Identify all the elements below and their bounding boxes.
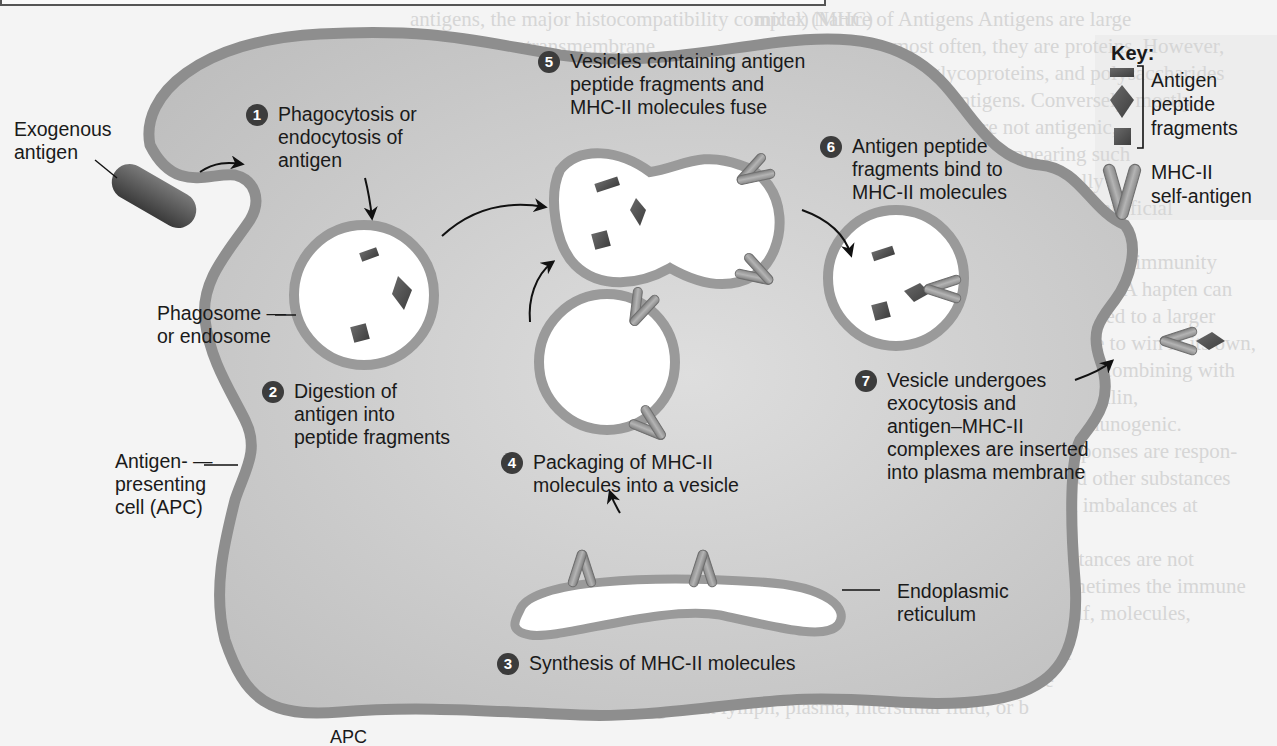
key-bracket	[1137, 66, 1143, 148]
key-rectangle-fragment-icon	[1110, 68, 1134, 77]
step-3: 3 Synthesis of MHC-II molecules	[497, 652, 796, 675]
step-4: 4 Packaging of MHC-IImolecules into a ve…	[501, 451, 739, 497]
label-exogenous-antigen: Exogenous antigen	[14, 118, 112, 164]
step-1: 1 Phagocytosis orendocytosis ofantigen	[246, 103, 417, 172]
bottom-fragment-text: APC	[330, 726, 367, 746]
label-apc: Antigen- — presenting cell (APC)	[115, 450, 213, 519]
step-2-badge: 2	[262, 381, 284, 403]
step-2-text: Digestion ofantigen intopeptide fragment…	[294, 380, 450, 449]
key-square-fragment-icon	[1114, 128, 1131, 145]
step-2: 2 Digestion ofantigen intopeptide fragme…	[262, 380, 450, 449]
step-1-badge: 1	[246, 104, 268, 126]
label-endoplasmic-reticulum: Endoplasmic reticulum	[897, 580, 1009, 626]
label-phagosome: Phagosome — or endosome	[157, 302, 286, 348]
step-4-text: Packaging of MHC-IImolecules into a vesi…	[533, 451, 739, 497]
step-4-badge: 4	[501, 452, 523, 474]
step-3-badge: 3	[497, 653, 519, 675]
key-title: Key:	[1111, 42, 1154, 65]
phagosome	[294, 225, 434, 365]
step-6-badge: 6	[820, 136, 842, 158]
step-5: 5 Vesicles containing antigenpeptide fra…	[538, 50, 805, 119]
step-3-text: Synthesis of MHC-II molecules	[529, 652, 796, 675]
step-7-badge: 7	[855, 370, 877, 392]
step-6-text: Antigen peptidefragments bind toMHC-II m…	[852, 135, 1007, 204]
step-5-badge: 5	[538, 51, 560, 73]
step-7-text: Vesicle undergoesexocytosis andantigen–M…	[887, 369, 1089, 484]
step-5-text: Vesicles containing antigenpeptide fragm…	[570, 50, 805, 119]
key-diamond-fragment-icon	[1110, 85, 1134, 118]
mhc-transport-vesicle	[539, 294, 675, 430]
step-1-text: Phagocytosis orendocytosis ofantigen	[278, 103, 417, 172]
step-7: 7 Vesicle undergoesexocytosis andantigen…	[855, 369, 1089, 484]
key-fragments-label: Antigen peptide fragments	[1151, 68, 1238, 140]
step-6: 6 Antigen peptidefragments bind toMHC-II…	[820, 135, 1007, 204]
binding-vesicle	[828, 210, 964, 346]
key-mhc-label: MHC-II self-antigen	[1151, 160, 1252, 208]
